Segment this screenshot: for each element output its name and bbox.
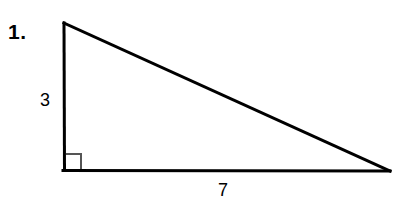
vertical-leg-line [64,23,65,170]
base-leg-length-label: 7 [218,181,228,199]
hypotenuse-line [64,23,390,171]
right-triangle-drawing [0,0,395,208]
right-angle-marker-icon [66,154,81,169]
problem-number-label: 1. [8,21,27,42]
vertical-leg-length-label: 3 [40,91,50,109]
base-leg-line [63,171,390,172]
figure-canvas: 1. 3 7 [0,0,395,208]
